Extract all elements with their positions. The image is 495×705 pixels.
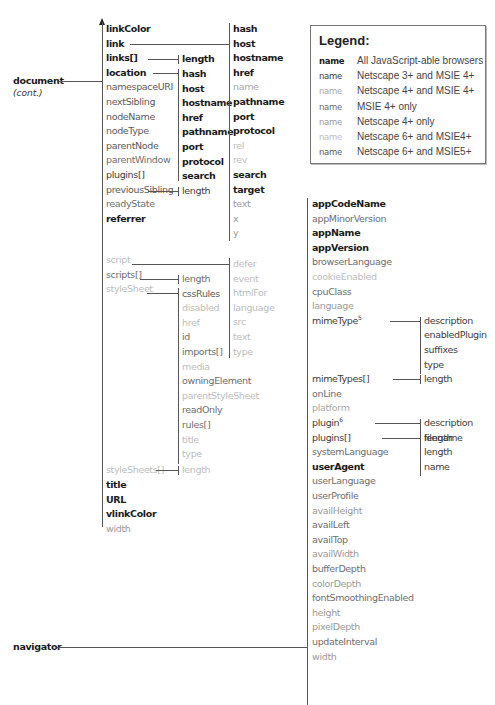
navigator-property: browserLanguage [312, 256, 392, 268]
tick-nav-plugins [420, 434, 421, 443]
legend-desc: Netscape 4+ only [357, 116, 435, 127]
navigator-property: userLanguage [312, 475, 375, 487]
connector-mimetype [390, 321, 420, 322]
stylesheet-child: parentStyleSheet [182, 390, 259, 402]
legend-sample: name [319, 132, 342, 142]
document-property: previousSibling [106, 184, 173, 196]
links-child: length [182, 53, 214, 65]
document-property: styleSheet [106, 283, 153, 295]
connector-links [148, 59, 178, 60]
stylesheet-child: media [182, 361, 210, 373]
legend-sample: name [319, 86, 342, 96]
legend-sample: name [319, 71, 342, 81]
legend-desc: Netscape 4+ and MSIE 4+ [357, 85, 474, 96]
navigator-property: fontSmoothingEnabled [312, 592, 414, 604]
document-property: referrer [106, 213, 145, 225]
connector-document [57, 81, 102, 82]
stylesheet-child: id [182, 331, 190, 343]
document-property: plugins[] [106, 169, 145, 181]
navigator-property: appName [312, 227, 360, 239]
tick-stylesheets [178, 466, 179, 475]
navigator-property: mimeTypes[] [312, 373, 369, 385]
location-child: href [182, 112, 203, 124]
navigator-property: updateInterval [312, 636, 377, 648]
navigator-property: appVersion [312, 242, 369, 254]
legend-desc: Netscape 3+ and MSIE 4+ [357, 70, 474, 81]
location-child: hash [182, 68, 206, 80]
connector-navigator [57, 647, 307, 648]
document-property: vlinkColor [106, 508, 156, 520]
navigator-property: platform [312, 402, 350, 414]
link-child: rel [233, 140, 244, 152]
document-property: link [106, 38, 124, 50]
legend-desc: Netscape 6+ and MSIE5+ [357, 146, 472, 157]
stylesheet-bracket [178, 288, 179, 464]
plugin-child: name [424, 461, 450, 473]
legend-desc: Netscape 6+ and MSIE4+ [357, 131, 472, 142]
navigator-property: userAgent [312, 461, 364, 473]
script-child: type [233, 346, 253, 358]
stylesheet-child: disabled [182, 302, 219, 314]
navigator-property: appCodeName [312, 198, 386, 210]
connector-mimetypes [393, 379, 420, 380]
tick-mimetypes [420, 375, 421, 384]
plugins-child: length [182, 185, 210, 197]
stylesheet-child: readOnly [182, 404, 222, 416]
navigator-property: plugins[] [312, 432, 351, 444]
navigator-property: appMinorVersion [312, 213, 386, 225]
link-child: hash [233, 23, 257, 35]
navigator-property: availLeft [312, 519, 349, 531]
link-child: search [233, 169, 267, 181]
stylesheet-child: title [182, 434, 199, 446]
document-property: scripts[] [106, 269, 142, 281]
connector-link [130, 44, 229, 45]
location-bracket [178, 69, 179, 181]
navigator-property: onLine [312, 388, 342, 400]
link-child: host [233, 38, 255, 50]
navigator-property: width [312, 651, 336, 663]
root-document: document [13, 75, 64, 86]
stylesheet-child: imports[] [182, 346, 223, 358]
document-property: namespaceURI [106, 81, 173, 93]
stylesheet-child: rules[] [182, 419, 210, 431]
connector-stylesheet [147, 293, 178, 294]
link-child: target [233, 184, 264, 196]
connector-scripts [140, 279, 178, 280]
navigator-property: availHeight [312, 505, 362, 517]
legend-sample: name [319, 56, 344, 66]
mimetype-child: type [424, 359, 444, 371]
location-child: pathname [182, 126, 233, 138]
navigator-property: availTop [312, 534, 348, 546]
link-child: rev [233, 154, 247, 166]
document-property: location [106, 67, 146, 79]
navigator-property: mimeType5 [312, 315, 361, 327]
tick-links [178, 55, 179, 64]
legend-sample: name [319, 102, 342, 112]
plugin-child: description [424, 417, 473, 429]
legend-box: Legend: nameAll JavaScript-able browsers… [310, 25, 486, 164]
script-child: htmlFor [233, 287, 267, 299]
document-property: nodeType [106, 125, 149, 137]
root-navigator: navigator [13, 641, 61, 652]
connector-location [153, 73, 178, 74]
document-property: width [106, 523, 130, 535]
location-child: protocol [182, 156, 224, 168]
document-property: title [106, 479, 126, 491]
location-child: hostname [182, 97, 232, 109]
connector-nav-plugins [382, 438, 420, 439]
root-document-note: (cont.) [13, 88, 43, 98]
link-child: x [233, 213, 238, 225]
script-child: defer [233, 258, 256, 270]
script-child: src [233, 316, 246, 328]
navigator-property: height [312, 607, 340, 619]
tick-plugins [178, 187, 179, 196]
stylesheet-child: cssRules [182, 288, 220, 300]
legend-row: nameNetscape 6+ and MSIE5+ [319, 147, 484, 163]
stylesheet-child: href [182, 317, 200, 329]
document-property: linkColor [106, 23, 150, 35]
script-child: language [233, 302, 274, 314]
document-property: parentWindow [106, 154, 170, 166]
legend-sample: name [319, 147, 342, 157]
script-child: event [233, 273, 258, 285]
nav-plugins-child: length [424, 432, 452, 444]
